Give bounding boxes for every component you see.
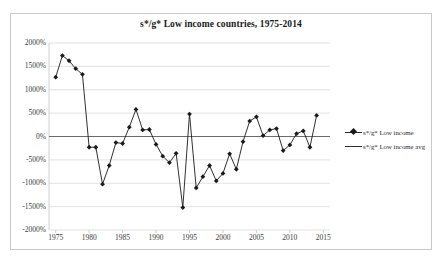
legend-marker-line-icon	[345, 141, 362, 151]
chart-legend: s*/g* Low income s*/g* Low income avg	[345, 126, 430, 154]
y-tick-label: 500%	[6, 109, 46, 117]
y-tick-label: 1500%	[6, 62, 46, 70]
series-line-low-income	[56, 56, 317, 208]
legend-item-low-income: s*/g* Low income	[345, 126, 430, 138]
chart-figure: s*/g* Low income countries, 1975-2014 20…	[0, 0, 445, 270]
y-tick-label: 1000%	[6, 86, 46, 94]
y-axis-tick-labels: 2000%1500%1000%500%0%-500%-1000%-1500%-2…	[4, 43, 46, 230]
x-tick-label: 2015	[303, 233, 343, 242]
x-axis-tick-labels: 197519801985199019952000200520102015	[49, 233, 330, 247]
chart-title: s*/g* Low income countries, 1975-2014	[10, 19, 432, 29]
y-tick-label: -1000%	[6, 179, 46, 187]
y-tick-label: 2000%	[6, 39, 46, 47]
plot-svg	[49, 43, 330, 230]
legend-label-low-income: s*/g* Low income	[362, 129, 414, 136]
series-markers-low-income	[53, 53, 319, 210]
legend-label-low-income-avg: s*/g* Low income avg	[362, 143, 425, 150]
y-tick-label: -1500%	[6, 203, 46, 211]
plot-area	[49, 43, 330, 230]
gridlines	[49, 43, 330, 233]
y-tick-label: 0%	[6, 133, 46, 141]
y-tick-label: -500%	[6, 156, 46, 164]
legend-item-low-income-avg: s*/g* Low income avg	[345, 140, 430, 152]
legend-marker-diamond-icon	[345, 127, 362, 137]
